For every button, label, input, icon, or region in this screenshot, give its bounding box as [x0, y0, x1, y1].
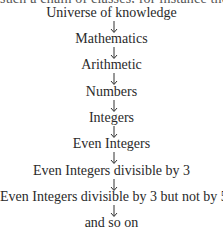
chain-node-numbers: Numbers: [0, 84, 223, 100]
chain-node-arithmetic: Arithmetic: [0, 57, 223, 73]
chain-node-div-by-3-not-5: Even Integers divisible by 3 but not by …: [0, 189, 223, 205]
chain-node-universe: Universe of knowledge: [0, 5, 223, 21]
chain-node-even-integers: Even Integers: [0, 136, 223, 152]
chain-node-integers: Integers: [0, 110, 223, 126]
chain-node-mathematics: Mathematics: [0, 31, 223, 47]
chain-node-div-by-3: Even Integers divisible by 3: [0, 163, 223, 179]
chain-node-and-so-on: and so on: [0, 215, 223, 231]
clipped-header-text: such a chain of classes, for instance th…: [0, 0, 223, 3]
